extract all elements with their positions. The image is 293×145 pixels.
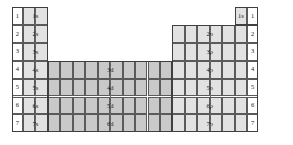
d-block-cell-r7-c4[interactable]: [85, 114, 97, 132]
p-block-cell-r6-c2[interactable]: [185, 97, 197, 115]
p-block-cell-r5-c2[interactable]: [185, 79, 197, 97]
row-number-right-4: 4: [247, 61, 258, 79]
p-block-cell-r3-c1[interactable]: [172, 43, 184, 61]
d-block-cell-r5-c3[interactable]: [73, 79, 85, 97]
d-block-cell-r6-c1[interactable]: [48, 97, 60, 115]
s-block-cell-r6-c1[interactable]: [23, 97, 35, 115]
p-block-cell-r5-c4[interactable]: [210, 79, 222, 97]
d-block-cell-r6-c2[interactable]: [60, 97, 72, 115]
d-block-cell-r5-c9[interactable]: [148, 79, 160, 97]
p-block-cell-r6-c4[interactable]: [210, 97, 222, 115]
d-block-cell-r4-c9[interactable]: [148, 61, 160, 79]
d-block-cell-r6-c8[interactable]: [135, 97, 147, 115]
p-block-cell-r2-c3[interactable]: [197, 25, 209, 43]
d-block-cell-r5-c2[interactable]: [60, 79, 72, 97]
d-block-cell-r5-c5[interactable]: [98, 79, 110, 97]
d-block-cell-r6-c3[interactable]: [73, 97, 85, 115]
d-block-cell-r5-c7[interactable]: [123, 79, 135, 97]
d-block-cell-r7-c7[interactable]: [123, 114, 135, 132]
d-block-cell-r6-c4[interactable]: [85, 97, 97, 115]
s-block-cell-r3-c1[interactable]: [23, 43, 35, 61]
p-block-cell-r5-c1[interactable]: [172, 79, 184, 97]
s-block-cell-r7-c2[interactable]: [35, 114, 47, 132]
s-block-cell-r2-c2[interactable]: [35, 25, 47, 43]
p-block-cell-r6-c3[interactable]: [197, 97, 209, 115]
p-block-cell-r5-c5[interactable]: [222, 79, 234, 97]
row-number-left-5: 5: [12, 79, 23, 97]
d-block-cell-r4-c3[interactable]: [73, 61, 85, 79]
s-block-cell-r7-c1[interactable]: [23, 114, 35, 132]
d-block-cell-r4-c6[interactable]: [110, 61, 122, 79]
p-block-cell-r2-c5[interactable]: [222, 25, 234, 43]
d-block-cell-r7-c5[interactable]: [98, 114, 110, 132]
d-block-cell-r6-c7[interactable]: [123, 97, 135, 115]
d-block-cell-r6-c6[interactable]: [110, 97, 122, 115]
p-block-cell-r5-c6[interactable]: [235, 79, 247, 97]
row-number-right-5: 5: [247, 79, 258, 97]
p-block-cell-r3-c3[interactable]: [197, 43, 209, 61]
d-block-cell-r7-c6[interactable]: [110, 114, 122, 132]
d-block-cell-r4-c10[interactable]: [160, 61, 172, 79]
d-block-cell-r6-c10[interactable]: [160, 97, 172, 115]
d-block-cell-r4-c1[interactable]: [48, 61, 60, 79]
p-block-cell-r3-c2[interactable]: [185, 43, 197, 61]
p-block-cell-r6-c6[interactable]: [235, 97, 247, 115]
d-block-cell-r7-c8[interactable]: [135, 114, 147, 132]
p-block-cell-r5-c3[interactable]: [197, 79, 209, 97]
p-block-cell-r7-c1[interactable]: [172, 114, 184, 132]
d-block-cell-r5-c6[interactable]: [110, 79, 122, 97]
p-block-cell-r4-c2[interactable]: [185, 61, 197, 79]
d-block-cell-r4-c8[interactable]: [135, 61, 147, 79]
p-block-cell-r7-c4[interactable]: [210, 114, 222, 132]
p-block-cell-r4-c3[interactable]: [197, 61, 209, 79]
s-block-cell-r4-c2[interactable]: [35, 61, 47, 79]
d-block-cell-r6-c9[interactable]: [148, 97, 160, 115]
p-block-cell-r4-c6[interactable]: [235, 61, 247, 79]
p-block-cell-r3-c4[interactable]: [210, 43, 222, 61]
row-number-left-7: 7: [12, 114, 23, 132]
row-number-right-6: 6: [247, 97, 258, 115]
p-block-cell-r2-c2[interactable]: [185, 25, 197, 43]
d-block-cell-r4-c5[interactable]: [98, 61, 110, 79]
s-block-cell-r2-c1[interactable]: [23, 25, 35, 43]
p-block-cell-r1-c6[interactable]: [235, 7, 247, 25]
p-block-cell-r7-c6[interactable]: [235, 114, 247, 132]
s-block-cell-r1-c2[interactable]: [35, 7, 47, 25]
d-block-cell-r7-c3[interactable]: [73, 114, 85, 132]
d-block-cell-r5-c8[interactable]: [135, 79, 147, 97]
s-block-cell-r4-c1[interactable]: [23, 61, 35, 79]
d-block-cell-r7-c9[interactable]: [148, 114, 160, 132]
p-block-cell-r3-c6[interactable]: [235, 43, 247, 61]
p-block-cell-r2-c1[interactable]: [172, 25, 184, 43]
s-block-cell-r5-c1[interactable]: [23, 79, 35, 97]
p-block-cell-r6-c1[interactable]: [172, 97, 184, 115]
s-block-cell-r5-c2[interactable]: [35, 79, 47, 97]
p-block-cell-r7-c2[interactable]: [185, 114, 197, 132]
d-block-cell-r4-c2[interactable]: [60, 61, 72, 79]
d-block-cell-r5-c1[interactable]: [48, 79, 60, 97]
p-block-cell-r2-c4[interactable]: [210, 25, 222, 43]
d-block-cell-r4-c7[interactable]: [123, 61, 135, 79]
p-block-cell-r3-c5[interactable]: [222, 43, 234, 61]
p-block-cell-r7-c3[interactable]: [197, 114, 209, 132]
row-number-right-2: 2: [247, 25, 258, 43]
row-number-right-1: 1: [247, 7, 258, 25]
s-block-cell-r6-c2[interactable]: [35, 97, 47, 115]
d-block-cell-r5-c10[interactable]: [160, 79, 172, 97]
row-number-left-1: 1: [12, 7, 23, 25]
d-block-cell-r7-c2[interactable]: [60, 114, 72, 132]
row-number-left-4: 4: [12, 61, 23, 79]
p-block-cell-r6-c5[interactable]: [222, 97, 234, 115]
p-block-cell-r4-c1[interactable]: [172, 61, 184, 79]
p-block-cell-r4-c5[interactable]: [222, 61, 234, 79]
d-block-cell-r4-c4[interactable]: [85, 61, 97, 79]
d-block-cell-r6-c5[interactable]: [98, 97, 110, 115]
s-block-cell-r3-c2[interactable]: [35, 43, 47, 61]
p-block-cell-r7-c5[interactable]: [222, 114, 234, 132]
p-block-cell-r2-c6[interactable]: [235, 25, 247, 43]
d-block-cell-r5-c4[interactable]: [85, 79, 97, 97]
s-block-cell-r1-c1[interactable]: [23, 7, 35, 25]
d-block-cell-r7-c1[interactable]: [48, 114, 60, 132]
d-block-cell-r7-c10[interactable]: [160, 114, 172, 132]
p-block-cell-r4-c4[interactable]: [210, 61, 222, 79]
